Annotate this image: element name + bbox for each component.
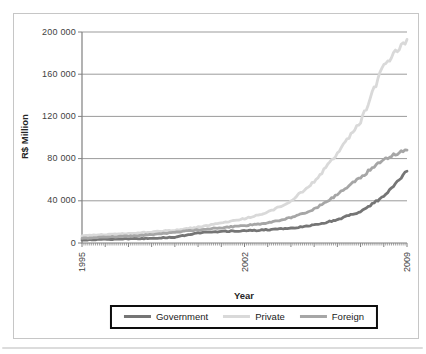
legend-item-private: Private xyxy=(223,311,285,322)
x-axis-title: Year xyxy=(234,290,254,301)
legend: GovernmentPrivateForeign xyxy=(110,305,378,329)
series-line-foreign xyxy=(82,150,407,239)
y-tick-label: 0 xyxy=(14,238,76,248)
legend-line-swatch xyxy=(300,315,327,319)
legend-label: Private xyxy=(255,311,285,322)
x-tick-label: 2009 xyxy=(402,248,412,272)
legend-item-government: Government xyxy=(124,311,208,322)
chart-figure: 040 00080 000120 000160 000200 000 19952… xyxy=(13,13,419,339)
x-tick-label: 2002 xyxy=(240,248,250,272)
legend-label: Foreign xyxy=(332,311,364,322)
y-tick-label: 40 000 xyxy=(14,195,76,205)
series-line-government xyxy=(82,171,407,240)
legend-item-foreign: Foreign xyxy=(300,311,364,322)
legend-line-swatch xyxy=(124,315,151,319)
page-edge-shadow xyxy=(2,347,423,349)
y-tick-label: 200 000 xyxy=(14,27,76,37)
y-axis-title: R$ Million xyxy=(19,87,31,187)
legend-line-swatch xyxy=(223,315,250,319)
y-tick-label: 160 000 xyxy=(14,69,76,79)
chart-canvas xyxy=(14,14,418,338)
legend-label: Government xyxy=(156,311,208,322)
series-line-private xyxy=(82,39,407,236)
x-tick-label: 1995 xyxy=(77,248,87,272)
